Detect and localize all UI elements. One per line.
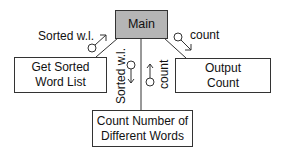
- module-get-sorted-line2: Word List: [31, 75, 89, 90]
- couple-sorted-wl-down-icon: [127, 61, 135, 83]
- module-count-number-of-different-words: Count Number of Different Words: [92, 110, 193, 147]
- couple-count-down-icon: [174, 33, 191, 50]
- module-main: Main: [115, 10, 168, 39]
- couple-label-sorted-wl-vertical: Sorted w.l.: [114, 48, 128, 104]
- module-output-count-line2: Count: [205, 76, 241, 91]
- couple-label-count-vertical: count: [157, 60, 171, 89]
- couple-label-count-right: count: [190, 28, 219, 42]
- couple-label-sorted-wl-left: Sorted w.l.: [38, 29, 94, 43]
- module-count-words-line1: Count Number of: [97, 114, 188, 129]
- module-output-count: Output Count: [175, 58, 271, 93]
- module-output-count-line1: Output: [205, 61, 241, 76]
- module-count-words-line2: Different Words: [97, 129, 188, 144]
- module-main-label: Main: [128, 17, 155, 32]
- module-get-sorted-word-list: Get Sorted Word List: [14, 57, 107, 93]
- module-get-sorted-line1: Get Sorted: [31, 60, 89, 75]
- couple-count-up-icon: [146, 64, 154, 86]
